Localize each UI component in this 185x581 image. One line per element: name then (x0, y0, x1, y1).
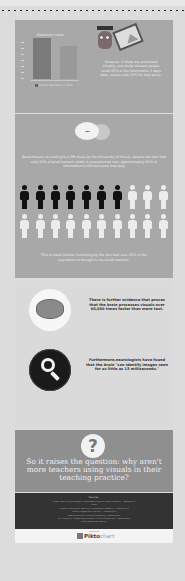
person-dark-icon (65, 185, 76, 209)
footer: made with Piktochart (15, 529, 173, 543)
picture-icon (112, 23, 144, 51)
people-section: This is made further frustrating by the … (15, 182, 173, 278)
brain-badge (29, 289, 71, 331)
speech-bubble-icon: ... (75, 122, 99, 140)
person-light-icon (142, 214, 153, 238)
piktochart-logo-icon (77, 533, 83, 539)
retention-section: Retention rates Visual learners vs Text … (15, 20, 173, 113)
search-badge (29, 349, 71, 391)
study-description: Nevertheless, according to a 3M study by… (21, 155, 167, 169)
visual-learners-description: This is made further frustrating by the … (35, 253, 153, 262)
person-light-icon (96, 214, 107, 238)
person-light-icon (127, 185, 138, 209)
magnifier-icon (41, 358, 55, 372)
source-line[interactable]: Visual images and memory - reference 3 (19, 511, 169, 514)
brain-icon (36, 299, 64, 319)
person-dark-icon (19, 185, 30, 209)
question-text: So it raises the question: why aren't mo… (17, 458, 171, 483)
person-dark-icon (96, 185, 107, 209)
speech-section: ... Nevertheless, according to a 3M stud… (15, 114, 173, 182)
made-with-label: made with (15, 530, 173, 532)
question-mark-icon: ? (81, 434, 105, 458)
person-dark-icon (50, 185, 61, 209)
x-axis (31, 80, 79, 81)
person-light-icon (35, 214, 46, 238)
people-row-1 (17, 185, 171, 209)
question-section: ? So it raises the question: why aren't … (15, 430, 173, 492)
chart-title: Retention rates (37, 33, 64, 37)
sources-section: Sources: Visual Teaching Strategies, Vis… (15, 493, 173, 529)
source-line[interactable]: Visual thinking and learning in educatio… (19, 508, 169, 511)
infographic: Retention rates Visual learners vs Text … (15, 20, 173, 543)
bar-visual (33, 38, 51, 79)
person-light-icon (158, 214, 169, 238)
chart-legend: Visual learners vs Text (35, 83, 72, 87)
person-light-icon (142, 185, 153, 209)
graduation-cap-icon (97, 26, 113, 30)
people-row-2 (17, 214, 171, 238)
person-light-icon (65, 214, 76, 238)
brain-fact: There is further evidence that proves th… (86, 298, 168, 312)
person-dark-icon (35, 185, 46, 209)
source-line[interactable]: www.reference-site.org (19, 521, 169, 524)
legend-swatch (35, 84, 38, 87)
neurologist-fact: Furthermore,neurologists have found that… (86, 358, 168, 372)
person-light-icon (50, 214, 61, 238)
piktochart-logo[interactable]: Piktochart (77, 533, 114, 539)
person-light-icon (112, 214, 123, 238)
person-light-icon (127, 214, 138, 238)
source-line[interactable]: More (19, 504, 169, 507)
person-light-icon (19, 214, 30, 238)
facts-section: There is further evidence that proves th… (15, 281, 173, 428)
person-light-icon (158, 185, 169, 209)
retention-description: However, if ideas are presented visually… (98, 60, 164, 78)
person-dark-icon (81, 185, 92, 209)
source-line[interactable]: Neuroscience of visual processing - refe… (19, 515, 169, 518)
sources-title: Sources: (15, 496, 173, 499)
y-axis (18, 42, 22, 82)
dotted-divider (0, 9, 185, 12)
person-light-icon (81, 214, 92, 238)
person-dark-icon (112, 185, 123, 209)
bar-text (60, 46, 77, 79)
top-bar (0, 0, 185, 6)
owl-graduate-icon (94, 26, 116, 52)
